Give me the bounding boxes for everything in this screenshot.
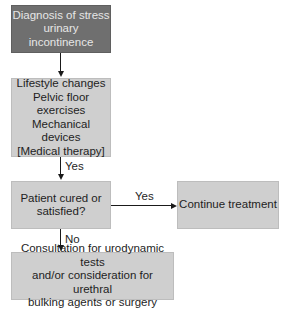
continue-line-1: Continue treatment <box>179 198 277 212</box>
decision-line-2: satisfied? <box>20 205 101 219</box>
conservative-line-3: exercises <box>12 104 110 118</box>
connector-conservative-to-decision <box>60 157 61 175</box>
conservative-line-5: [Medical therapy] <box>12 145 110 159</box>
conservative-line-1: Lifestyle changes <box>12 77 110 91</box>
edge-label-yes-right: Yes <box>135 190 154 202</box>
connector-diagnosis-to-conservative <box>60 53 61 72</box>
consultation-line-3: bulking agents or surgery <box>12 296 173 310</box>
consultation-line-1: Consultation for urodynamic tests <box>12 242 173 269</box>
diagnosis-line-1: Diagnosis of stress <box>12 9 110 23</box>
arrowhead-down-icon <box>58 174 64 180</box>
edge-label-yes: Yes <box>65 160 84 172</box>
conservative-line-4: Mechanical devices <box>12 118 110 145</box>
consultation-box: Consultation for urodynamic tests and/or… <box>11 252 174 300</box>
diagnosis-box: Diagnosis of stress urinary incontinence <box>11 5 111 53</box>
decision-box: Patient cured or satisfied? <box>11 181 111 229</box>
conservative-treatment-box: Lifestyle changes Pelvic floor exercises… <box>11 78 111 157</box>
decision-line-1: Patient cured or <box>20 192 101 206</box>
connector-decision-to-continue <box>111 205 171 206</box>
consultation-line-2: and/or consideration for urethral <box>12 269 173 296</box>
continue-treatment-box: Continue treatment <box>177 181 279 229</box>
diagnosis-line-2: urinary incontinence <box>12 22 110 49</box>
conservative-line-2: Pelvic floor <box>12 91 110 105</box>
